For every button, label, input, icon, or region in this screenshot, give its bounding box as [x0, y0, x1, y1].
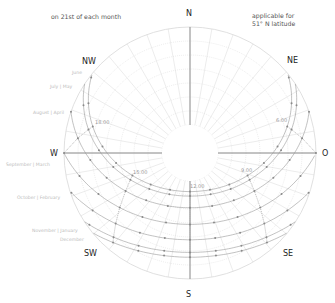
hour-dot	[129, 179, 131, 181]
hour-dot	[263, 162, 265, 164]
hour-dot	[296, 104, 298, 106]
hour-dot	[163, 255, 165, 257]
hour-dot	[272, 177, 274, 179]
azimuth-spoke	[218, 131, 315, 148]
hour-dot	[90, 77, 92, 79]
hour-dot	[189, 223, 191, 225]
hour-dot	[82, 104, 84, 106]
azimuth-spoke	[72, 110, 164, 144]
azimuth-spoke	[195, 181, 212, 278]
hour-dot	[63, 152, 65, 154]
hour-dot	[241, 250, 243, 252]
hour-dot	[266, 166, 268, 168]
hour-dot	[233, 199, 235, 201]
hour-dot	[300, 175, 302, 177]
direction-north: N	[186, 9, 192, 18]
hour-dot	[266, 241, 268, 243]
hour-dot	[78, 175, 80, 177]
direction-northeast: NE	[287, 56, 298, 65]
hour-dot	[290, 224, 292, 226]
azimuth-spoke	[66, 131, 163, 148]
hour-dot	[89, 159, 91, 161]
hour-dot	[280, 149, 282, 151]
hour-dot	[286, 209, 288, 211]
hour-dot	[214, 237, 216, 239]
month-label-june: June	[72, 70, 82, 75]
hour-dot	[240, 245, 242, 247]
hour-dot	[137, 250, 139, 252]
hour-dot	[113, 236, 115, 238]
hour-dot	[112, 241, 114, 243]
hour-dot	[87, 128, 89, 130]
hour-dot	[145, 199, 147, 201]
month-label-november-january: November | January	[32, 228, 78, 233]
hour-dot	[259, 207, 261, 209]
azimuth-spoke	[168, 181, 185, 278]
month-label-october-february: October | February	[17, 195, 60, 200]
azimuth-spoke	[66, 158, 163, 175]
month-label-july-may: July | May	[50, 84, 72, 89]
hour-dot	[286, 125, 288, 127]
azimuth-spoke	[147, 35, 181, 127]
hour-dot	[209, 189, 211, 191]
hour-dot	[247, 175, 249, 177]
direction-south: S	[186, 290, 191, 299]
hour-dot	[315, 152, 317, 154]
hour-dot	[165, 222, 167, 224]
hour-dot	[125, 190, 127, 192]
hour-dot	[277, 146, 279, 148]
time-label-1500: 15.00	[133, 169, 147, 175]
hour-dot	[288, 77, 290, 79]
latitude-note: applicable for 51° N latitude	[252, 12, 295, 28]
direction-northwest: NW	[82, 57, 96, 66]
hour-dot	[164, 237, 166, 239]
hour-dot	[189, 195, 191, 197]
hour-dot	[101, 146, 103, 148]
hour-dot	[215, 255, 217, 257]
hour-dot	[289, 159, 291, 161]
latitude-note-line2: 51° N latitude	[252, 20, 295, 28]
time-label-0900: 9.00	[241, 167, 252, 173]
hour-dot	[163, 250, 165, 252]
hour-dot	[189, 256, 191, 258]
hour-dot	[189, 239, 191, 241]
hour-dot	[98, 149, 100, 151]
hour-dot	[87, 102, 89, 104]
latitude-note-line1: applicable for	[252, 12, 295, 20]
hour-dot	[92, 209, 94, 211]
hour-dot	[215, 250, 217, 252]
direction-east: O	[322, 149, 328, 158]
hour-dot	[228, 183, 230, 185]
hour-dot	[230, 188, 232, 190]
hour-dot	[239, 232, 241, 234]
hour-dot	[148, 188, 150, 190]
hour-dot	[169, 189, 171, 191]
direction-west: W	[50, 149, 58, 158]
hour-dot	[141, 216, 143, 218]
hour-dot	[168, 193, 170, 195]
azimuth-spoke	[216, 163, 308, 197]
time-label-0600: 6.00	[276, 117, 287, 123]
hour-dot	[189, 207, 191, 209]
hour-dot	[308, 192, 310, 194]
hour-dot	[308, 111, 310, 113]
hour-dot	[213, 222, 215, 224]
month-label-august-april: August | April	[33, 110, 64, 115]
time-label-1800: 18.00	[95, 119, 109, 125]
azimuth-spoke	[216, 110, 308, 144]
hour-dot	[237, 216, 239, 218]
hour-dot	[139, 232, 141, 234]
month-label-december: December	[60, 237, 84, 242]
azimuth-spoke	[218, 158, 315, 175]
hour-dot	[301, 137, 303, 139]
hour-dot	[88, 224, 90, 226]
azimuth-spoke	[195, 29, 212, 126]
zenith-blank-circle	[162, 125, 218, 181]
hour-dot	[77, 137, 79, 139]
hour-dot	[189, 251, 191, 253]
hour-dot	[92, 125, 94, 127]
hour-dot	[249, 179, 251, 181]
hour-dot	[70, 192, 72, 194]
hour-dot	[115, 162, 117, 164]
hour-dot	[138, 245, 140, 247]
